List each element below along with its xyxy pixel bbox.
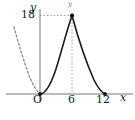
- origin-label: O: [33, 94, 42, 105]
- main-curve: [40, 16, 105, 95]
- y-tick-label-18: 18: [21, 9, 35, 20]
- point-peak: [70, 13, 74, 17]
- peak-annotation-label: y: [68, 1, 72, 8]
- function-graph-figure: y x 18 O 6 12 y: [0, 0, 135, 120]
- x-tick-label-6: 6: [68, 94, 75, 105]
- x-tick-label-12: 12: [96, 94, 110, 105]
- x-axis-label: x: [120, 92, 126, 103]
- dashed-curve-extension: [14, 27, 40, 94]
